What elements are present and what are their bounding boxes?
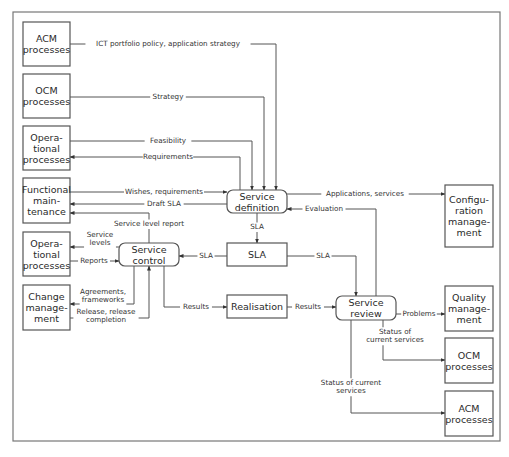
node-label: SLA bbox=[248, 249, 267, 260]
edge-label: Evaluation bbox=[305, 204, 343, 213]
node-acm-left: ACMprocesses bbox=[23, 22, 70, 66]
node-label: ACM bbox=[36, 33, 57, 44]
edge-results-to-review: Results bbox=[287, 302, 336, 312]
edge-label: Reports bbox=[80, 256, 108, 265]
node-label: Change bbox=[28, 291, 65, 302]
node-service-definition: Servicedefinition bbox=[227, 190, 287, 213]
node-label: tional bbox=[33, 143, 60, 154]
connector-line bbox=[164, 266, 227, 307]
node-label: tenance bbox=[27, 206, 66, 217]
node-sla: SLA bbox=[227, 243, 287, 266]
edge-label: Draft SLA bbox=[147, 199, 181, 208]
edge-label: SLA bbox=[199, 251, 213, 260]
edge-label: Strategy bbox=[153, 92, 185, 101]
edge-reports: Reports bbox=[70, 256, 119, 266]
edge-label: Service level report bbox=[114, 219, 184, 228]
node-label: processes bbox=[445, 414, 492, 425]
edge-applications-services: Applications, services bbox=[287, 189, 445, 199]
node-label: OCM bbox=[458, 350, 480, 361]
node-label: definition bbox=[235, 202, 280, 213]
node-ocm-left: OCMprocesses bbox=[23, 74, 70, 118]
connector-line bbox=[70, 141, 252, 190]
node-label: tional bbox=[33, 249, 60, 260]
edge-sla-to-control: SLA bbox=[179, 251, 227, 261]
edges-layer: ICT portfolio policy, application strate… bbox=[70, 39, 445, 413]
edge-sla-to-review: SLA bbox=[287, 251, 356, 296]
node-label: Opera- bbox=[30, 238, 63, 249]
node-label: processes bbox=[23, 154, 70, 165]
edge-label: Applications, services bbox=[326, 189, 404, 198]
edge-evaluation: Evaluation bbox=[287, 204, 376, 296]
node-label: control bbox=[133, 255, 166, 266]
edge-definition-to-sla: SLA bbox=[248, 213, 265, 243]
node-acm-right: ACMprocesses bbox=[445, 391, 493, 436]
edge-requirements: Requirements bbox=[70, 152, 240, 190]
node-label: processes bbox=[23, 96, 70, 107]
node-label: ration bbox=[455, 205, 483, 216]
edge-service-levels: Servicelevels bbox=[70, 230, 119, 249]
edge-label: ICT portfolio policy, application strate… bbox=[96, 39, 241, 48]
edge-draft-sla: Draft SLA bbox=[70, 199, 227, 209]
node-label: ment bbox=[457, 314, 482, 325]
edge-label: Problems bbox=[402, 309, 435, 318]
edge-label: levels bbox=[90, 238, 111, 247]
node-label: manage- bbox=[448, 303, 490, 314]
node-label: main- bbox=[33, 195, 60, 206]
node-label: manage- bbox=[448, 216, 490, 227]
node-label: Service bbox=[131, 244, 166, 255]
edge-feasibility: Feasibility bbox=[70, 136, 252, 190]
edge-label: Requirements bbox=[143, 152, 193, 161]
edge-label: completion bbox=[86, 315, 126, 324]
edge-label: services bbox=[336, 386, 366, 395]
edge-wishes-requirements: Wishes, requirements bbox=[70, 187, 227, 197]
node-label: Functional bbox=[22, 184, 71, 195]
edge-label: SLA bbox=[316, 251, 330, 260]
edge-label: current services bbox=[366, 335, 424, 344]
connector-line bbox=[287, 256, 356, 296]
node-label: Service bbox=[239, 191, 274, 202]
edge-label: Feasibility bbox=[150, 136, 187, 145]
node-service-review: Servicereview bbox=[336, 296, 396, 320]
node-label: processes bbox=[445, 361, 492, 372]
node-label: ACM bbox=[458, 403, 479, 414]
node-label: Realisation bbox=[231, 301, 283, 312]
node-label: manage- bbox=[25, 302, 67, 313]
edge-label: Results bbox=[295, 302, 321, 311]
edge-ict-portfolio-policy: ICT portfolio policy, application strate… bbox=[70, 39, 276, 190]
node-label: OCM bbox=[35, 85, 57, 96]
node-realisation: Realisation bbox=[227, 295, 287, 318]
service-level-management-diagram: ICT portfolio policy, application strate… bbox=[0, 0, 509, 457]
node-label: Configu- bbox=[449, 194, 489, 205]
connector-line bbox=[70, 44, 276, 190]
edge-status-to-ocm: Status ofcurrent services bbox=[362, 320, 445, 360]
node-functional-maintenance: Functionalmain-tenance bbox=[22, 178, 71, 223]
node-label: Service bbox=[348, 297, 383, 308]
node-operational-top: Opera-tionalprocesses bbox=[23, 126, 70, 170]
node-label: processes bbox=[23, 44, 70, 55]
node-label: processes bbox=[23, 260, 70, 271]
node-label: Quality bbox=[452, 292, 486, 303]
node-change-management: Changemanage-ment bbox=[23, 285, 70, 330]
node-label: Opera- bbox=[30, 132, 63, 143]
node-label: ment bbox=[34, 313, 59, 324]
node-quality-management: Qualitymanage-ment bbox=[445, 286, 493, 331]
edge-label: Results bbox=[183, 302, 209, 311]
edge-label: frameworks bbox=[82, 295, 125, 304]
node-configuration-management: Configu-rationmanage-ment bbox=[445, 185, 493, 247]
edge-problems: Problems bbox=[396, 309, 445, 319]
node-operational-bottom: Opera-tionalprocesses bbox=[23, 232, 70, 276]
node-label: ment bbox=[457, 227, 482, 238]
node-service-control: Servicecontrol bbox=[119, 243, 179, 266]
node-ocm-right: OCMprocesses bbox=[445, 338, 493, 383]
edge-agreements-frameworks: Agreements,frameworks bbox=[70, 266, 134, 305]
edge-results-to-realisation: Results bbox=[164, 266, 227, 312]
node-label: review bbox=[350, 308, 382, 319]
edge-label: Wishes, requirements bbox=[125, 187, 203, 196]
edge-label: SLA bbox=[250, 222, 264, 231]
